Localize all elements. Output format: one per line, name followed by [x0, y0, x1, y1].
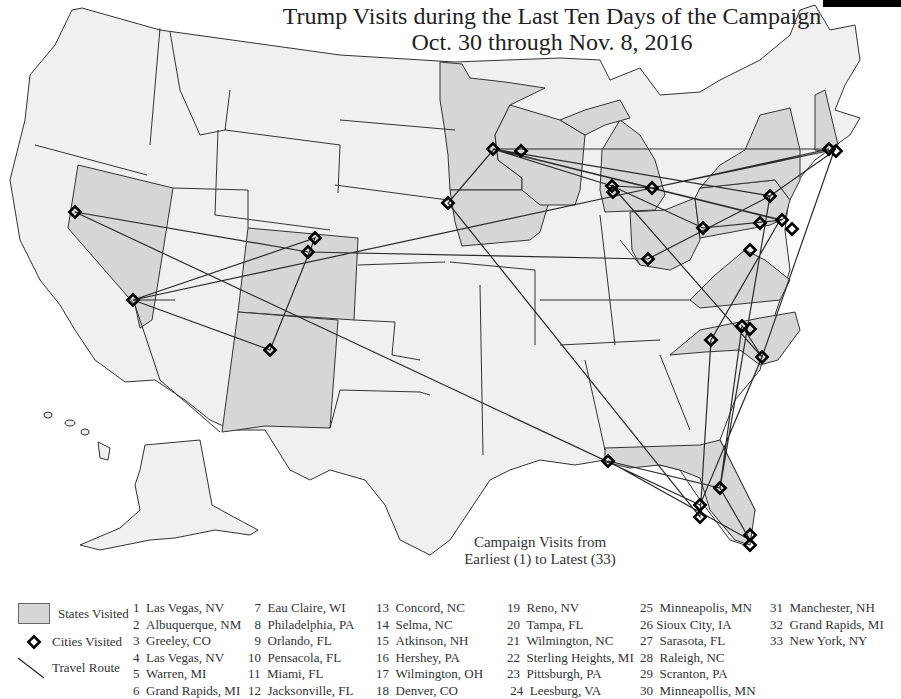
title-line-1: Trump Visits during the Last Ten Days of… [232, 3, 872, 29]
visits-column-2: 7 Eau Claire, WI 8 Philadelphia, PA 9 Or… [248, 600, 354, 699]
visit-item: 5 Warren, MI [133, 666, 241, 683]
visit-item: 7 Eau Claire, WI [248, 600, 354, 617]
visit-item: 31 Manchester, NH [770, 600, 884, 617]
visits-column-3: 13 Concord, NC 14 Selma, NC 15 Atkinson,… [376, 600, 483, 699]
visit-item: 16 Hershey, PA [376, 650, 483, 667]
title-line-2: Oct. 30 through Nov. 8, 2016 [232, 29, 872, 55]
diagonal-line-icon [16, 656, 46, 680]
visit-item: 4 Las Vegas, NV [133, 650, 241, 667]
visit-item: 24 Leesburg, VA [507, 683, 634, 699]
visit-item: 25 Minneapolis, MN [640, 600, 756, 617]
visit-item: 2 Albuquerque, NM [133, 617, 241, 634]
visit-item: 32 Grand Rapids, MI [770, 617, 884, 634]
state-new-mexico [222, 312, 338, 432]
visit-item: 33 New York, NY [770, 633, 884, 650]
legend-label: Cities Visited [52, 634, 122, 650]
visit-item: 21 Wilmington, NC [507, 633, 634, 650]
visit-item: 13 Concord, NC [376, 600, 483, 617]
visit-item: 22 Sterling Heights, MI [507, 650, 634, 667]
visit-item: 3 Greeley, CO [133, 633, 241, 650]
visits-column-4: 19 Reno, NV 20 Tampa, FL 21 Wilmington, … [507, 600, 634, 699]
visit-item: 1 Las Vegas, NV [133, 600, 241, 617]
visit-item: 29 Scranton, PA [640, 666, 756, 683]
map-title: Trump Visits during the Last Ten Days of… [232, 3, 872, 55]
visits-subtitle: Campaign Visits from Earliest (1) to Lat… [440, 534, 640, 568]
visit-item: 6 Grand Rapids, MI [133, 683, 241, 699]
visit-item: 14 Selma, NC [376, 617, 483, 634]
state-hawaii [44, 412, 110, 460]
visits-column-1: 1 Las Vegas, NV 2 Albuquerque, NM 3 Gree… [133, 600, 241, 699]
visit-item: 23 Pittsburgh, PA [507, 666, 634, 683]
legend-label: States Visited [58, 606, 129, 622]
legend: States Visited Cities Visited Travel Rou… [0, 600, 130, 681]
legend-states-visited: States Visited [18, 603, 129, 624]
legend-label: Travel Route [52, 660, 120, 676]
city-marker-new-york [786, 223, 797, 234]
legend-travel-route: Travel Route [16, 656, 120, 680]
gray-swatch-icon [18, 603, 50, 624]
legend-cities-visited: Cities Visited [26, 634, 122, 650]
visit-item: 9 Orlando, FL [248, 633, 354, 650]
visit-item: 26 Sioux City, IA [640, 617, 756, 634]
visits-column-6: 31 Manchester, NH 32 Grand Rapids, MI 33… [770, 600, 884, 650]
visit-item: 19 Reno, NV [507, 600, 634, 617]
us-map [0, 0, 901, 600]
visit-item: 8 Philadelphia, PA [248, 617, 354, 634]
visits-column-5: 25 Minneapolis, MN 26 Sioux City, IA 27 … [640, 600, 756, 699]
visit-item: 27 Sarasota, FL [640, 633, 756, 650]
visit-item: 15 Atkinson, NH [376, 633, 483, 650]
visit-item: 11 Miami, FL [248, 666, 354, 683]
visit-item: 20 Tampa, FL [507, 617, 634, 634]
subtitle-line-2: Earliest (1) to Latest (33) [440, 551, 640, 568]
visit-item: 18 Denver, CO [376, 683, 483, 699]
visit-item: 12 Jacksonville, FL [248, 683, 354, 699]
visit-item: 28 Raleigh, NC [640, 650, 756, 667]
visit-item: 10 Pensacola, FL [248, 650, 354, 667]
diamond-marker-icon [26, 634, 42, 650]
subtitle-line-1: Campaign Visits from [440, 534, 640, 551]
visit-item: 30 Minneapollis, MN [640, 683, 756, 699]
visit-item: 17 Wilmington, OH [376, 666, 483, 683]
